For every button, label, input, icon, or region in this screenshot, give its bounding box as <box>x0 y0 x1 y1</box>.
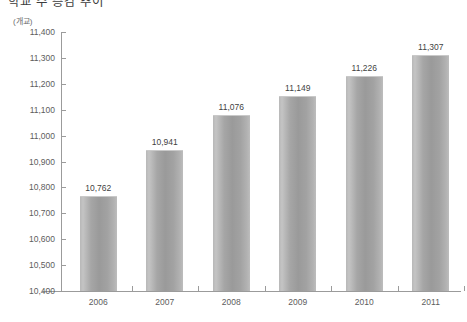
bar-value-label: 11,226 <box>352 63 377 73</box>
x-axis-line <box>42 291 461 292</box>
bar-2009[interactable] <box>279 96 316 291</box>
x-axis-tick-label: 2009 <box>288 297 307 307</box>
bar-2008[interactable] <box>213 115 250 291</box>
y-axis-tick-label: 11,300 <box>30 53 55 63</box>
x-axis-tick-label: 2011 <box>422 297 440 307</box>
y-axis-tick-label: 10,400 <box>29 286 55 296</box>
y-axis-tick-label: 10,600 <box>29 234 55 244</box>
bar-value-label: 11,076 <box>219 102 244 112</box>
bar-2010[interactable] <box>346 76 383 291</box>
bar-value-label: 10,762 <box>85 183 111 193</box>
bar-value-label: 11,307 <box>418 42 443 52</box>
x-axis-tick <box>464 286 465 291</box>
bar-2011[interactable] <box>412 55 449 291</box>
y-axis-tick-label: 11,400 <box>30 27 55 37</box>
y-axis-tick-label: 10,500 <box>29 260 55 270</box>
bar-2007[interactable] <box>146 150 183 291</box>
x-axis-tick-label: 2008 <box>222 297 241 307</box>
y-axis-tick-label: 10,900 <box>29 157 55 167</box>
y-axis-tick-label: 10,800 <box>29 182 55 192</box>
y-axis-tick-label: 10,700 <box>29 208 55 218</box>
bar-value-label: 11,149 <box>285 83 310 93</box>
x-axis-tick-label: 2006 <box>89 297 108 307</box>
y-axis-tick-label: 11,000 <box>30 131 55 141</box>
y-axis-labels: 11,40011,30011,20011,10011,00010,90010,8… <box>0 0 55 322</box>
x-axis-tick-label: 2007 <box>155 297 174 307</box>
y-axis-tick-label: 11,100 <box>30 105 55 115</box>
plot-area <box>61 32 460 291</box>
y-axis-tick-label: 11,200 <box>30 79 55 89</box>
x-axis-tick-label: 2010 <box>355 297 374 307</box>
bar-2006[interactable] <box>80 196 117 291</box>
bar-value-label: 10,941 <box>152 137 178 147</box>
